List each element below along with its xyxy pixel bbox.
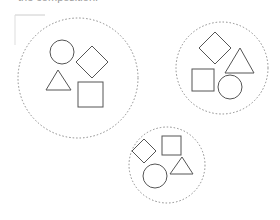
diamond-shape (76, 46, 108, 78)
triangle-shape (225, 48, 254, 73)
square-shape (162, 136, 181, 155)
circle-shape (50, 40, 74, 64)
group-outline (18, 18, 138, 138)
group-bottom (129, 127, 205, 203)
diamond-shape (199, 32, 231, 64)
square-shape (192, 69, 214, 91)
square-shape (78, 82, 103, 107)
circle-shape (143, 164, 167, 188)
shape-groups-diagram (0, 0, 280, 220)
diamond-shape (132, 139, 156, 163)
triangle-shape (46, 70, 71, 90)
group-outline (129, 127, 205, 203)
group-outline (176, 22, 268, 114)
circle-shape (218, 75, 242, 99)
group-left (18, 18, 138, 138)
triangle-shape (170, 157, 193, 174)
group-right (176, 22, 268, 114)
